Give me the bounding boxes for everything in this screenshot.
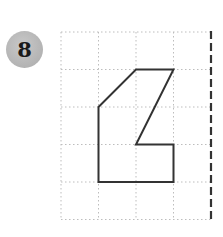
grid-diagram bbox=[0, 0, 223, 237]
dotted-grid bbox=[61, 32, 211, 220]
